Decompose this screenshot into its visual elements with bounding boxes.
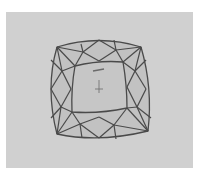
gem-facet-diagram [0, 0, 200, 176]
